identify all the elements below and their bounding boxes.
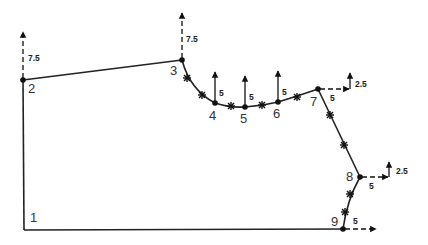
edge-1-2 — [23, 80, 24, 230]
node-label-8: 8 — [346, 169, 353, 184]
node-label-9: 9 — [331, 214, 338, 229]
node-label-7: 7 — [310, 94, 317, 109]
star-icon — [340, 141, 348, 149]
star-icon — [346, 190, 354, 198]
star-icon — [198, 91, 206, 99]
nodes — [20, 57, 363, 232]
mid-nodes — [183, 74, 354, 216]
edge-2-3 — [23, 60, 182, 80]
load-label-node-4: 5 — [219, 88, 224, 98]
load-label-node-7-x: 5 — [330, 93, 335, 103]
load-label-node-2: 7.5 — [28, 53, 40, 63]
edge-7-8 — [318, 89, 360, 177]
node-label-1: 1 — [30, 210, 37, 225]
load-label-node-7-y: 2.5 — [355, 79, 367, 89]
load-label-node-5: 5 — [249, 92, 254, 102]
node-label-3: 3 — [170, 63, 177, 78]
node-6 — [275, 99, 281, 105]
node-4 — [212, 100, 218, 106]
node-8 — [357, 174, 363, 180]
node-label-6: 6 — [273, 106, 280, 121]
node-label-2: 2 — [28, 81, 35, 96]
node-label-5: 5 — [240, 111, 247, 126]
star-icon — [326, 111, 334, 119]
boundary-outline — [23, 60, 360, 230]
load-label-node-8-x: 5 — [369, 181, 374, 191]
mesh-diagram: 1 2 3 4 5 6 7 8 9 7.5 7.5 5 5 5 5 2.5 5 … — [0, 0, 428, 245]
node-5 — [242, 104, 248, 110]
edge-9-1 — [24, 229, 343, 230]
star-icon — [258, 101, 266, 109]
load-label-node-9-x: 5 — [353, 216, 358, 226]
node-label-4: 4 — [209, 108, 216, 123]
node-7 — [315, 86, 321, 92]
star-icon — [183, 74, 191, 82]
node-9 — [340, 226, 346, 232]
load-label-node-8-y: 2.5 — [396, 166, 408, 176]
load-label-node-6: 5 — [282, 87, 287, 97]
load-label-node-3: 7.5 — [186, 34, 198, 44]
node-labels: 1 2 3 4 5 6 7 8 9 — [28, 63, 353, 229]
node-2 — [20, 77, 26, 83]
star-icon — [293, 93, 301, 101]
star-icon — [227, 102, 235, 110]
node-3 — [179, 57, 185, 63]
star-icon — [341, 208, 349, 216]
